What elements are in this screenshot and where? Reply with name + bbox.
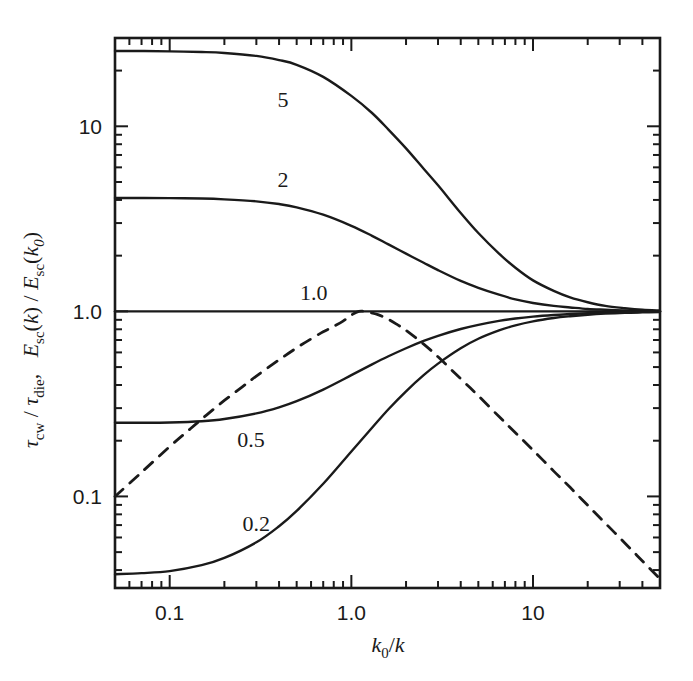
y-axis-title-sc2: sc [31, 264, 47, 277]
curve-label-5: 5 [277, 87, 288, 112]
curve-5 [115, 51, 660, 311]
x-axis-title-subzero: 0 [381, 645, 389, 661]
y-axis-title-gap [18, 357, 43, 374]
x-tick-label: 10 [521, 601, 544, 624]
curve-label-0.2: 0.2 [243, 511, 271, 536]
x-tick-label: 1.0 [337, 601, 366, 624]
curve-0.2 [115, 312, 660, 574]
y-tick-label: 10 [79, 115, 102, 138]
x-axis-title: k0/k [371, 632, 405, 661]
y-axis-title-E2: E [18, 276, 43, 291]
y-axis-title-sc1: sc [31, 331, 47, 344]
axis-tick-labels: 0.11.0100.11.010 [73, 115, 545, 624]
y-axis-title-E1: E [18, 343, 43, 358]
y-axis-title-slash1: / [18, 406, 43, 423]
curve-2 [115, 198, 660, 311]
y-axis-title-die: die [31, 379, 47, 398]
y-tick-label: 0.1 [73, 485, 102, 508]
x-axis-title-k2: k [395, 632, 406, 657]
curve-dashed [115, 311, 660, 579]
y-axis-title-open2: ( [18, 257, 43, 264]
curve-label-2: 2 [277, 167, 288, 192]
x-tick-label: 0.1 [155, 601, 184, 624]
y-axis-title-cw: cw [31, 423, 47, 441]
y-tick-label: 1.0 [73, 300, 102, 323]
figure-container: 0.11.0100.11.010 521.00.50.2 k0/k τcw / … [0, 0, 693, 681]
data-curves [115, 51, 660, 579]
y-axis-title-close2: ) [18, 232, 43, 239]
log-log-line-chart: 0.11.0100.11.010 521.00.50.2 k0/k τcw / … [0, 0, 693, 681]
curve-0.5 [115, 312, 660, 423]
y-axis-title: τcw / τdie, Esc(k) / Esc(k0) [18, 232, 47, 448]
y-axis-title-close1: ) [18, 307, 43, 314]
y-axis-title-open1: ( [18, 324, 43, 331]
y-axis-title-slash2: / [18, 290, 43, 307]
curve-label-1.0: 1.0 [300, 280, 328, 305]
curve-label-0.5: 0.5 [237, 427, 265, 452]
